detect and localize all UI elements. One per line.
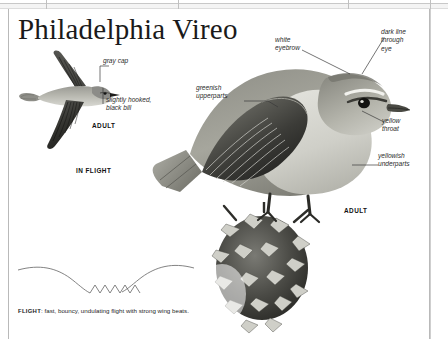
undulating-flight-path-diagram [16, 252, 196, 302]
perched-adult-bird-illustration [150, 44, 410, 229]
callout-slightly-hooked-black-bill: slightly hooked, black bill [106, 96, 151, 113]
page-title: Philadelphia Vireo [18, 13, 238, 46]
callout-white-eyebrow: white eyebrow [275, 36, 300, 53]
flight-note-label: FLIGHT [18, 308, 41, 314]
scan-tick-mark [178, 0, 179, 9]
callout-gray-cap: gray cap [103, 57, 128, 65]
page-right-margin [430, 9, 448, 339]
scan-tick-mark [348, 0, 349, 9]
caption-in-flight-adult: ADULT [92, 122, 115, 129]
callout-yellow-throat: yellow throat [382, 117, 400, 134]
flight-description-note: FLIGHT: fast, bouncy, undulating flight … [18, 307, 204, 316]
scan-tick-mark [46, 0, 47, 9]
caption-in-flight: IN FLIGHT [76, 167, 111, 174]
callout-greenish-upperparts: greenish upperparts [196, 84, 228, 101]
callout-yellowish-underparts: yellowish underparts [378, 152, 410, 169]
callout-dark-line-through-eye: dark line through eye [381, 28, 406, 53]
caption-perched-adult: ADULT [344, 207, 367, 214]
flight-note-text: fast, bouncy, undulating flight with str… [45, 307, 189, 314]
scan-tick-mark [430, 0, 431, 9]
